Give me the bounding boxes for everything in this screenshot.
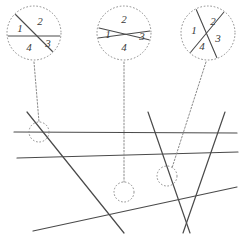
shallow-ascending-line (17, 152, 238, 158)
callout-middle-region-label-4: 4 (121, 41, 127, 53)
horizontal-line (14, 132, 237, 133)
callout-middle-region-label-3: 3 (138, 30, 145, 42)
callout-right-boundary (181, 6, 235, 60)
callout-left-region-label-3: 3 (44, 37, 51, 49)
intersection-middle (114, 182, 134, 202)
leader-right (172, 62, 206, 168)
callout-left-region-label-4: 4 (26, 41, 32, 53)
callout-right-region-label-3: 3 (214, 32, 221, 44)
callout-right-region-label-4: 4 (199, 40, 205, 52)
callout-right-region-label-2: 2 (210, 15, 216, 27)
callout-right-region-label-1: 1 (191, 24, 197, 36)
intersection-right (157, 166, 177, 186)
callout-middle-region-label-1: 1 (105, 28, 111, 40)
callouts-group: 123421341234 (7, 6, 235, 60)
callout-middle-region-label-2: 2 (121, 13, 127, 25)
v-right-line (183, 112, 225, 233)
leader-left (34, 62, 39, 122)
line-arrangement-figure: 123421341234 (0, 0, 248, 247)
leader-lines-group (34, 62, 206, 182)
callout-middle: 2134 (97, 6, 151, 60)
callout-left: 1234 (7, 6, 61, 60)
figure-canvas: 123421341234 (0, 0, 248, 247)
arrangement-lines-group (14, 112, 238, 233)
callout-right: 1234 (181, 6, 235, 60)
callout-left-region-label-1: 1 (17, 22, 23, 34)
shallow-descending-line (33, 187, 237, 231)
callout-left-region-label-2: 2 (37, 15, 43, 27)
intersection-markers-group (29, 122, 177, 202)
